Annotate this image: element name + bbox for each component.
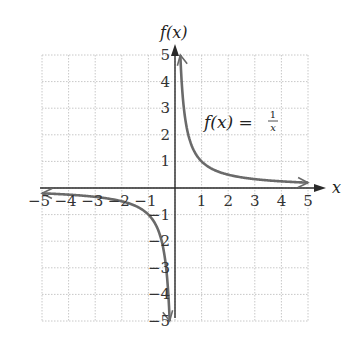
x-tick-label: −5 xyxy=(28,192,50,210)
x-tick-label: 4 xyxy=(277,192,287,210)
annotation-lhs: f(x) = xyxy=(202,112,253,132)
curve-arrow-up-icon xyxy=(177,55,187,66)
x-tick-label: −3 xyxy=(81,192,103,210)
x-tick-label: 3 xyxy=(250,192,260,210)
y-tick-label: 1 xyxy=(160,152,170,170)
y-tick-label: 2 xyxy=(160,126,170,144)
y-tick-label: 4 xyxy=(160,73,170,91)
x-tick-label: 5 xyxy=(303,192,313,210)
x-axis-label: x xyxy=(332,178,341,197)
x-tick-label: −4 xyxy=(55,192,77,210)
x-tick-label: −2 xyxy=(108,192,130,210)
y-axis-label: f(x) xyxy=(159,23,187,42)
y-tick-label: −1 xyxy=(148,206,170,224)
y-tick-label: −5 xyxy=(148,312,170,330)
y-tick-label: 3 xyxy=(160,99,170,117)
x-tick-label: 1 xyxy=(197,192,207,210)
x-tick-label: 2 xyxy=(223,192,233,210)
function-annotation: f(x) = 1 x xyxy=(202,109,278,133)
reciprocal-function-chart: −5−4−3−2−112345−5−4−3−2−112345 x f(x) f(… xyxy=(0,0,360,340)
y-tick-label: 5 xyxy=(160,46,170,64)
x-axis-arrow-icon xyxy=(314,184,326,192)
y-tick-label: −4 xyxy=(148,285,170,303)
annotation-numerator: 1 xyxy=(270,109,276,120)
y-tick-label: −2 xyxy=(148,232,170,250)
y-axis-arrow-icon xyxy=(171,44,179,56)
annotation-denominator: x xyxy=(270,122,276,133)
y-tick-label: −3 xyxy=(148,259,170,277)
